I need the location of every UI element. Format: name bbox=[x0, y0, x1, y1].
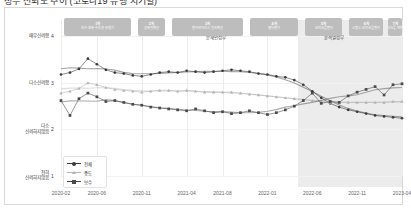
wave-band-desc: 오미크론변이 bbox=[315, 27, 333, 30]
data-point bbox=[149, 73, 152, 76]
data-point bbox=[87, 57, 90, 60]
wave-band: 6차스텔스 오미크론변이 bbox=[349, 18, 383, 36]
data-point bbox=[69, 71, 72, 74]
data-point bbox=[383, 94, 386, 97]
data-point bbox=[158, 71, 161, 74]
data-point bbox=[194, 108, 197, 111]
data-point bbox=[374, 114, 377, 117]
wave-band: 1차대구·경북·수도권 유행기 bbox=[64, 18, 130, 36]
y-tick-label: 3 bbox=[51, 80, 54, 86]
x-tick-label: 2022-06 bbox=[303, 190, 321, 196]
data-point bbox=[293, 105, 296, 108]
x-tick-label: 2020-11 bbox=[133, 190, 151, 196]
wave-band-list: 1차대구·경북·수도권 유행기2차광복절확산3차변이바이러스 전국확산4차델타변… bbox=[61, 18, 402, 38]
data-point bbox=[158, 107, 161, 110]
data-point bbox=[212, 111, 215, 114]
data-point bbox=[131, 74, 134, 77]
data-point bbox=[383, 115, 386, 118]
legend-label: 중도 bbox=[84, 170, 92, 176]
data-point bbox=[140, 75, 143, 78]
x-tick-label: 2022-11 bbox=[348, 190, 366, 196]
data-point bbox=[113, 99, 116, 102]
data-point bbox=[230, 68, 233, 71]
data-point bbox=[167, 70, 170, 73]
wave-band: 5차오미크론변이 bbox=[305, 18, 343, 36]
data-point bbox=[275, 75, 278, 78]
legend-item[interactable]: 중도 bbox=[67, 168, 103, 177]
y-tick-label: 1 bbox=[51, 173, 54, 179]
plot-area: 문재인정부윤석열정부 bbox=[61, 20, 402, 187]
data-point bbox=[96, 95, 99, 98]
data-point bbox=[78, 68, 81, 71]
wave-band: 3차변이바이러스 전국확산 bbox=[172, 18, 244, 36]
data-point bbox=[203, 71, 206, 74]
data-point bbox=[185, 69, 188, 72]
wave-band-desc: 광복절확산 bbox=[144, 27, 159, 30]
legend-item[interactable]: 전체 bbox=[67, 159, 103, 168]
legend-item[interactable]: 보수 bbox=[67, 177, 103, 186]
data-point bbox=[365, 88, 368, 91]
x-tick-label: 2020-06 bbox=[88, 190, 106, 196]
data-point bbox=[302, 83, 305, 86]
legend-marker-square-icon bbox=[67, 178, 81, 185]
page-title-strip: 정부 신뢰도 추이 (코로나19 유행 시기별) bbox=[0, 0, 407, 7]
wave-band: 4차델타변이 bbox=[250, 18, 298, 36]
data-point bbox=[221, 110, 224, 113]
legend-label: 보수 bbox=[84, 179, 92, 185]
data-point bbox=[401, 117, 404, 120]
data-point bbox=[392, 116, 395, 119]
page-title: 정부 신뢰도 추이 (코로나19 유행 시기별) bbox=[4, 0, 157, 7]
data-point bbox=[140, 104, 143, 107]
data-point bbox=[230, 112, 233, 115]
data-point bbox=[374, 85, 377, 88]
data-point bbox=[221, 69, 224, 72]
y-category-label: 매우신뢰함 bbox=[5, 33, 49, 38]
data-point bbox=[176, 71, 179, 74]
x-tick-label: 2022-01 bbox=[258, 190, 276, 196]
data-point bbox=[203, 109, 206, 112]
data-point bbox=[293, 79, 296, 82]
data-point bbox=[266, 73, 269, 76]
data-point bbox=[239, 111, 242, 114]
data-point bbox=[275, 111, 278, 114]
data-point bbox=[194, 70, 197, 73]
data-point bbox=[96, 63, 99, 66]
wave-band: 2차광복절확산 bbox=[138, 18, 165, 36]
data-point bbox=[248, 109, 251, 112]
x-tick-label: 2021-08 bbox=[213, 190, 231, 196]
legend-label: 전체 bbox=[84, 161, 92, 167]
data-point bbox=[113, 71, 116, 74]
data-point bbox=[356, 110, 359, 113]
data-point bbox=[87, 92, 90, 95]
data-point bbox=[86, 81, 89, 84]
y-tick-label: 4 bbox=[51, 33, 54, 39]
data-point bbox=[284, 109, 287, 112]
wave-band-desc: 변이바이러스 전국확산 bbox=[192, 27, 223, 30]
data-point bbox=[239, 69, 242, 72]
data-point bbox=[347, 95, 350, 98]
data-point bbox=[320, 102, 323, 105]
data-point bbox=[248, 70, 251, 73]
v-gridline bbox=[402, 20, 403, 176]
data-point bbox=[320, 96, 323, 99]
chart-frame: 문재인정부윤석열정부 1차대구·경북·수도권 유행기2차광복절확산3차변이바이러… bbox=[4, 7, 403, 205]
data-point bbox=[365, 112, 368, 115]
data-point bbox=[257, 111, 260, 114]
y-category-label: 다소신뢰하지않음 bbox=[5, 123, 49, 134]
data-point bbox=[212, 70, 215, 73]
series-canvas bbox=[61, 20, 402, 187]
x-tick-label: 2023-04 bbox=[393, 190, 411, 196]
data-point bbox=[266, 113, 269, 116]
data-point bbox=[122, 101, 125, 104]
data-point bbox=[185, 109, 188, 112]
y-tick-label: 2 bbox=[51, 126, 54, 132]
data-point bbox=[176, 109, 179, 112]
data-point bbox=[392, 83, 395, 86]
data-point bbox=[302, 99, 305, 102]
y-category-label: 전혀신뢰하지않음 bbox=[5, 170, 49, 181]
data-point bbox=[347, 109, 350, 112]
legend-marker-circle-icon bbox=[67, 160, 81, 167]
data-point bbox=[338, 101, 341, 104]
data-point bbox=[60, 99, 63, 102]
